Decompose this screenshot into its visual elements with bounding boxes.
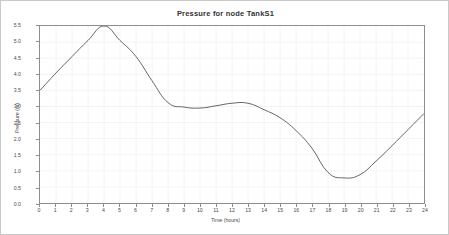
x-axis-tick-label: 3 — [86, 207, 89, 213]
x-axis-tick-mark — [216, 204, 217, 207]
x-axis-tick-label: 18 — [326, 207, 332, 213]
x-axis-tick-mark — [393, 204, 394, 207]
y-axis-tick-label: 0.0 — [0, 201, 21, 207]
x-axis-tick-label: 4 — [102, 207, 105, 213]
x-axis-tick-label: 2 — [70, 207, 73, 213]
x-axis-tick-label: 13 — [245, 207, 251, 213]
x-axis-tick-label: 24 — [422, 207, 428, 213]
x-axis-tick-label: 8 — [166, 207, 169, 213]
y-axis-tick-mark — [36, 58, 39, 59]
x-axis-tick-mark — [280, 204, 281, 207]
y-axis-tick-mark — [36, 90, 39, 91]
x-axis-tick-label: 17 — [310, 207, 316, 213]
y-axis-tick-mark — [36, 25, 39, 26]
x-axis-tick-mark — [55, 204, 56, 207]
x-axis-tick-label: 10 — [197, 207, 203, 213]
y-axis-tick-label: 1.5 — [0, 152, 21, 158]
x-axis-tick-mark — [409, 204, 410, 207]
x-axis-tick-label: 15 — [277, 207, 283, 213]
x-axis-tick-mark — [361, 204, 362, 207]
x-axis-tick-mark — [296, 204, 297, 207]
chart-window: Pressure for node TankS1 Pressure (m) Ti… — [0, 0, 449, 235]
y-axis-tick-label: 2.0 — [0, 136, 21, 142]
x-axis-tick-mark — [103, 204, 104, 207]
x-axis-tick-label: 20 — [358, 207, 364, 213]
y-axis-tick-label: 5.0 — [0, 38, 21, 44]
x-axis-tick-mark — [119, 204, 120, 207]
x-axis-label: Time (hours) — [1, 217, 449, 223]
x-axis-tick-label: 0 — [38, 207, 41, 213]
y-axis-tick-mark — [36, 41, 39, 42]
x-axis-tick-label: 1 — [54, 207, 57, 213]
y-axis-tick-label: 1.0 — [0, 168, 21, 174]
x-axis-tick-label: 5 — [118, 207, 121, 213]
x-axis-tick-mark — [425, 204, 426, 207]
y-axis-tick-mark — [36, 188, 39, 189]
y-axis-tick-mark — [36, 74, 39, 75]
x-axis-tick-mark — [152, 204, 153, 207]
x-axis-tick-label: 14 — [261, 207, 267, 213]
x-axis-tick-mark — [184, 204, 185, 207]
x-axis-tick-label: 19 — [342, 207, 348, 213]
y-axis-tick-label: 4.0 — [0, 71, 21, 77]
x-axis-tick-mark — [87, 204, 88, 207]
pressure-series-line — [40, 26, 424, 203]
x-axis-tick-mark — [312, 204, 313, 207]
x-axis-tick-label: 7 — [150, 207, 153, 213]
y-axis-tick-label: 2.5 — [0, 120, 21, 126]
y-axis-tick-label: 5.5 — [0, 22, 21, 28]
x-axis-tick-mark — [345, 204, 346, 207]
x-axis-tick-label: 9 — [182, 207, 185, 213]
x-axis-tick-mark — [168, 204, 169, 207]
x-axis-tick-mark — [329, 204, 330, 207]
y-axis-tick-label: 3.0 — [0, 103, 21, 109]
x-axis-tick-label: 6 — [134, 207, 137, 213]
x-axis-tick-mark — [232, 204, 233, 207]
y-axis-tick-label: 4.5 — [0, 55, 21, 61]
y-axis-tick-mark — [36, 204, 39, 205]
x-axis-tick-label: 23 — [406, 207, 412, 213]
plot-area — [39, 25, 425, 204]
y-axis-tick-mark — [36, 106, 39, 107]
x-axis-tick-mark — [71, 204, 72, 207]
y-axis-tick-mark — [36, 123, 39, 124]
x-axis-tick-label: 16 — [293, 207, 299, 213]
y-axis-tick-mark — [36, 155, 39, 156]
x-axis-tick-label: 12 — [229, 207, 235, 213]
chart-title: Pressure for node TankS1 — [1, 9, 449, 18]
x-axis-tick-mark — [264, 204, 265, 207]
x-axis-tick-mark — [248, 204, 249, 207]
y-axis-tick-mark — [36, 171, 39, 172]
series-path — [40, 26, 424, 178]
x-axis-tick-label: 11 — [213, 207, 218, 213]
x-axis-tick-label: 22 — [390, 207, 396, 213]
x-axis-tick-mark — [39, 204, 40, 207]
y-axis-tick-label: 0.5 — [0, 185, 21, 191]
x-axis-tick-label: 21 — [374, 207, 380, 213]
y-axis-tick-label: 3.5 — [0, 87, 21, 93]
x-axis-tick-mark — [377, 204, 378, 207]
x-axis-tick-mark — [136, 204, 137, 207]
y-axis-tick-mark — [36, 139, 39, 140]
x-axis-tick-mark — [200, 204, 201, 207]
